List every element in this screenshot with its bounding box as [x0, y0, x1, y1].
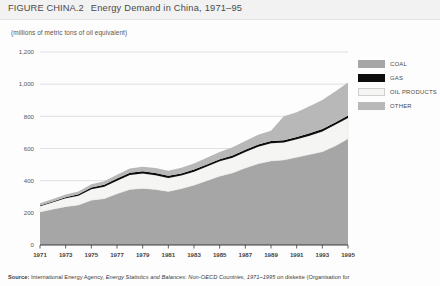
chart-legend: COALGASOIL PRODUCTSOTHER	[358, 58, 437, 114]
x-tick-label-1979: 1979	[136, 251, 150, 258]
x-tick-label-1987: 1987	[239, 251, 253, 258]
legend-label-oil: OIL PRODUCTS	[390, 89, 437, 95]
legend-label-coal: COAL	[390, 61, 407, 67]
source-text-before: International Energy Agency,	[29, 274, 105, 280]
x-tick-label-1983: 1983	[187, 251, 201, 258]
legend-item-oil: OIL PRODUCTS	[358, 86, 437, 97]
x-tick-label-1975: 1975	[85, 251, 99, 258]
source-note: Source: International Energy Agency, Ene…	[8, 274, 440, 280]
y-axis-ticks-group: 02004006008001,0001,200	[19, 48, 35, 248]
y-tick-label-400: 400	[24, 177, 35, 184]
axis-units-note: (millions of metric tons of oil equivale…	[11, 29, 127, 36]
figure-title-text: Energy Demand in China, 1971–95	[91, 3, 242, 13]
page-title: FIGURE CHINA.2Energy Demand in China, 19…	[8, 3, 242, 13]
y-tick-label-1200: 1,200	[19, 48, 35, 55]
legend-item-coal: COAL	[358, 58, 437, 69]
x-tick-label-1989: 1989	[264, 251, 278, 258]
figure-title-bar: FIGURE CHINA.2Energy Demand in China, 19…	[0, 0, 440, 20]
legend-swatch-gas-icon	[358, 74, 385, 82]
x-tick-label-1971: 1971	[33, 251, 47, 258]
y-tick-label-1000: 1,000	[19, 80, 35, 87]
source-citation-title: Energy Statistics and Balances: Non-OECD…	[106, 274, 276, 280]
x-axis-ticks-group: 1971197319751977197919811983198519871989…	[33, 245, 355, 258]
x-tick-label-1991: 1991	[290, 251, 304, 258]
x-tick-label-1985: 1985	[213, 251, 227, 258]
x-tick-label-1981: 1981	[162, 251, 176, 258]
source-text-after: on diskette (Organisation for	[275, 274, 349, 280]
legend-label-gas: GAS	[390, 75, 403, 81]
x-tick-label-1973: 1973	[59, 251, 73, 258]
y-tick-label-200: 200	[24, 209, 35, 216]
area-series-group	[40, 83, 348, 245]
legend-swatch-oil-icon	[358, 88, 385, 96]
source-label: Source:	[8, 274, 29, 280]
legend-label-other: OTHER	[390, 103, 412, 109]
y-tick-label-600: 600	[24, 145, 35, 152]
x-tick-label-1995: 1995	[341, 251, 355, 258]
legend-item-other: OTHER	[358, 100, 437, 111]
y-tick-label-0: 0	[31, 241, 35, 248]
x-tick-label-1993: 1993	[316, 251, 330, 258]
x-tick-label-1977: 1977	[110, 251, 124, 258]
figure-number: FIGURE CHINA.2	[8, 3, 84, 13]
legend-item-gas: GAS	[358, 72, 437, 83]
legend-swatch-coal-icon	[358, 60, 385, 68]
legend-swatch-other-icon	[358, 102, 385, 110]
y-tick-label-800: 800	[24, 113, 35, 120]
figure-card: FIGURE CHINA.2Energy Demand in China, 19…	[0, 0, 440, 286]
